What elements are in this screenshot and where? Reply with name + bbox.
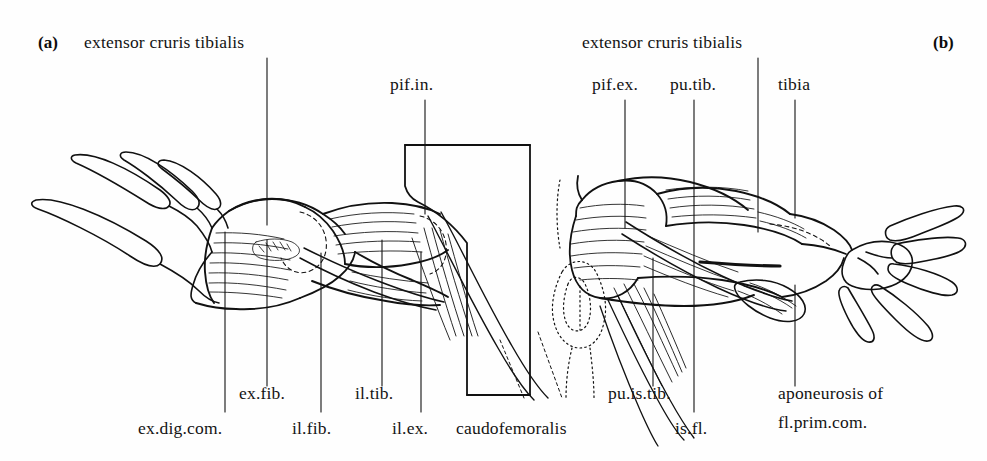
panel-tag-b: (b): [933, 33, 954, 53]
tibia-outline-b: [782, 214, 852, 297]
digit-b-5: [839, 287, 874, 343]
digit-a-3: [158, 160, 220, 209]
aponeurosis-strap-b: [700, 262, 780, 266]
label-ex-fib: ex.fib.: [239, 383, 285, 403]
web-a-2: [197, 208, 212, 228]
digit-b-4: [871, 285, 932, 341]
thigh-dorsal-b2: [657, 188, 790, 214]
thigh-ventral-b2: [600, 295, 754, 306]
thigh-outline-b: [600, 177, 802, 306]
metatarsal-b-2: [866, 252, 892, 258]
digit-b-1: [886, 206, 964, 241]
pelvic-ghost-outline-b: [552, 180, 605, 398]
tibia-ventral: [782, 258, 844, 297]
panel-a-artwork: [32, 145, 562, 400]
label-il-ex: il.ex.: [392, 418, 428, 438]
label-extensor-cruris-tibialis-b: extensor cruris tibialis: [582, 32, 742, 52]
panel-b-artwork: [552, 176, 965, 446]
extensor-cruris-tibialis-fibres-a: [209, 233, 290, 298]
digit-b-2: [891, 237, 965, 263]
label-caudofemoralis: caudofemoralis: [456, 418, 567, 438]
tibia-dorsal: [790, 214, 852, 250]
label-pif-ex: pif.ex.: [592, 74, 638, 94]
anatomical-figure: (a) (b) extensor cruris tibialis pif.in.…: [0, 0, 987, 461]
web-a-1: [169, 206, 212, 252]
knee-mass-a: [229, 199, 355, 298]
label-ex-dig-com: ex.dig.com.: [138, 418, 222, 438]
digits-group-b: [839, 206, 966, 342]
label-pif-in: pif.in.: [390, 74, 433, 94]
label-is-fl: is.fl.: [675, 418, 707, 438]
tibia-mid: [802, 244, 846, 254]
label-il-tib: il.tib.: [355, 383, 393, 403]
label-extensor-cruris-tibialis-a: extensor cruris tibialis: [84, 32, 244, 52]
label-aponeurosis-line1: aponeurosis of: [778, 383, 883, 403]
digits-group-a: [32, 152, 228, 303]
label-pu-tib: pu.tib.: [670, 74, 716, 94]
body-wall-trapezoid-a: [405, 145, 530, 395]
digit-b-3: [888, 264, 957, 296]
panel-tag-a: (a): [38, 33, 58, 53]
pif-ex-tip: [577, 176, 582, 200]
label-tibia: tibia: [778, 74, 810, 94]
digit-a-4: [32, 199, 162, 266]
knee-dorsal-a: [229, 199, 345, 234]
oblique-band-a: [300, 248, 444, 310]
label-aponeurosis-line2: fl.prim.com.: [778, 412, 867, 432]
pif-ex-dorsal: [582, 181, 667, 226]
metatarsal-b-1: [858, 258, 878, 274]
label-il-fib: il.fib.: [292, 418, 331, 438]
label-pu-is-tib: pu.is.tib.: [608, 383, 671, 403]
